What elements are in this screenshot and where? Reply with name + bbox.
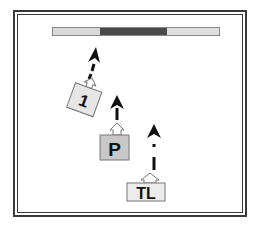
diagram-canvas: 1 P TL (0, 0, 260, 225)
token-1: 1 (67, 47, 106, 117)
up-notch-icon (141, 173, 159, 183)
token-label: TL (136, 185, 156, 202)
token-p: P (100, 95, 129, 160)
up-notch-icon (110, 123, 124, 135)
token-label: P (108, 139, 121, 160)
dashed-arrow-icon (110, 95, 124, 120)
dashed-arrow-icon (88, 47, 100, 79)
token-tl: TL (127, 124, 165, 202)
dashed-arrow-icon (147, 124, 161, 170)
